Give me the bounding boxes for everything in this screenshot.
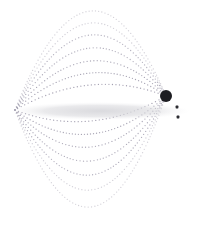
field-line-dot: [53, 161, 54, 162]
field-line-dot: [145, 72, 146, 73]
field-line-dot: [115, 51, 116, 52]
field-line-dot: [35, 134, 36, 135]
field-line-dot: [134, 155, 135, 156]
field-line-dot: [88, 189, 89, 190]
field-line-dot: [152, 83, 153, 84]
field-line-dot: [67, 32, 68, 33]
field-line-dot: [151, 65, 152, 66]
field-line-dot: [29, 80, 30, 81]
field-line-dot: [83, 161, 84, 162]
field-line-dot: [28, 98, 29, 99]
field-line-dot: [133, 147, 134, 148]
field-line-dot: [45, 162, 46, 163]
field-line-dot: [27, 130, 28, 131]
field-line-dot: [30, 146, 31, 147]
field-line-dot: [106, 48, 107, 49]
field-line-dot: [126, 37, 127, 38]
field-line-dot: [27, 140, 28, 141]
field-line-dot: [147, 74, 148, 75]
field-line-dot: [108, 155, 109, 156]
field-line-dot: [86, 61, 87, 62]
field-line-dot: [72, 186, 73, 187]
field-line-dot: [55, 43, 56, 44]
field-line-dot: [71, 121, 72, 122]
field-line-dot: [116, 191, 117, 192]
field-line-dot: [149, 124, 150, 125]
field-line-dot: [153, 73, 154, 74]
field-line-dot: [153, 118, 154, 119]
field-line-dot: [157, 82, 158, 83]
field-line-dot: [135, 145, 136, 146]
field-line-dot: [108, 198, 109, 199]
field-line-dot: [142, 128, 143, 129]
field-line-dot: [94, 189, 95, 190]
field-line-dot: [157, 93, 158, 94]
field-line-dot: [49, 94, 50, 95]
field-line-dot: [101, 144, 102, 145]
field-line-dot: [98, 84, 99, 85]
field-line-dot: [22, 99, 23, 100]
field-line-dot: [113, 73, 114, 74]
field-line-dot: [84, 189, 85, 190]
field-line-dot: [78, 134, 79, 135]
field-line-dot: [28, 143, 29, 144]
field-line-dot: [126, 28, 127, 29]
field-line-dot: [139, 159, 140, 160]
field-line-dot: [161, 88, 162, 89]
field-line-dot: [46, 86, 47, 87]
field-line-dot: [80, 49, 81, 50]
field-line-dot: [95, 174, 96, 175]
field-line-dot: [91, 34, 92, 35]
field-line-dot: [155, 101, 156, 102]
field-line-dot: [34, 146, 35, 147]
field-line-dot: [159, 103, 160, 104]
field-line-dot: [119, 84, 120, 85]
field-line-dot: [149, 130, 150, 131]
field-line-dot: [35, 129, 36, 130]
field-line-dot: [147, 89, 148, 90]
field-line-dot: [148, 70, 149, 71]
field-line-dot: [101, 23, 102, 24]
field-line-dot: [144, 64, 145, 65]
field-line-dot: [46, 61, 47, 62]
field-line-dot: [122, 44, 123, 45]
field-line-dot: [124, 66, 125, 67]
field-line-dot: [28, 137, 29, 138]
field-line-dot: [37, 152, 38, 153]
field-line-dot: [131, 42, 132, 43]
field-line-dot: [73, 64, 74, 65]
field-line-dot: [44, 143, 45, 144]
field-line-dot: [96, 133, 97, 134]
field-line-dot: [81, 206, 82, 207]
field-line-dot: [45, 174, 46, 175]
field-line-dot: [46, 118, 47, 119]
field-line-dot: [111, 129, 112, 130]
field-line-dot: [107, 14, 108, 15]
field-line-dot: [83, 174, 84, 175]
field-line-dot: [41, 132, 42, 133]
field-line-dot: [113, 194, 114, 195]
field-line-dot: [123, 75, 124, 76]
field-line-dot: [54, 63, 55, 64]
field-line-dot: [52, 83, 53, 84]
field-line-dot: [94, 34, 95, 35]
field-line-dot: [60, 120, 61, 121]
field-line-dot: [130, 150, 131, 151]
field-line-dot: [138, 57, 139, 58]
field-line-dot: [59, 38, 60, 39]
field-line-dot: [147, 58, 148, 59]
field-line-dot: [133, 86, 134, 87]
field-line-dot: [71, 18, 72, 19]
field-line-dot: [88, 35, 89, 36]
field-line-dot: [35, 156, 36, 157]
field-line-dot: [125, 46, 126, 47]
field-line-dot: [123, 135, 124, 136]
field-line-dot: [143, 141, 144, 142]
field-line-dot: [45, 126, 46, 127]
field-line-dot: [109, 182, 110, 183]
field-line-dot: [59, 192, 60, 193]
field-line-dot: [43, 171, 44, 172]
field-line-dot: [48, 156, 49, 157]
field-line-dot: [63, 132, 64, 133]
field-line-dot: [35, 149, 36, 150]
